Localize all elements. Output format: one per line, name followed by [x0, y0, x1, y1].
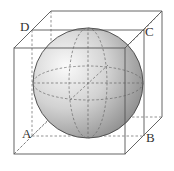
sphere [33, 28, 143, 138]
label-c: C [145, 24, 154, 39]
label-d: D [20, 19, 29, 34]
sphere-in-cube-diagram: D C A B [0, 0, 174, 171]
label-b: B [146, 130, 155, 145]
label-a: A [22, 126, 32, 141]
